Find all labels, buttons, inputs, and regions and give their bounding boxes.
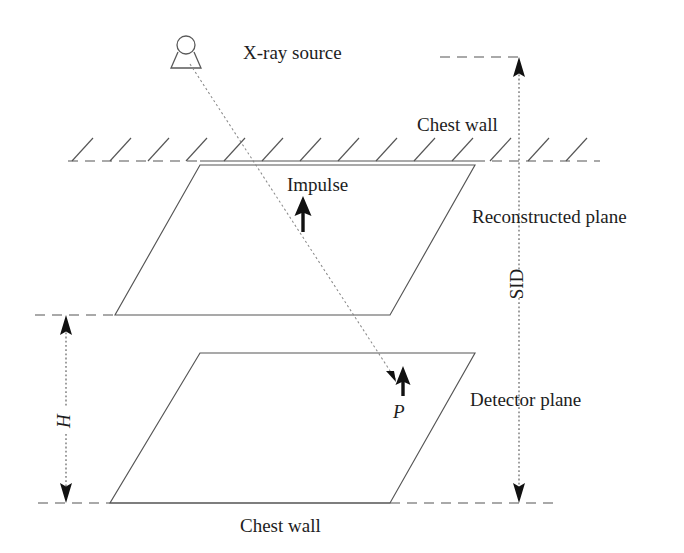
sid-arrow-up-icon [513,57,525,77]
xray-source-icon [171,36,201,68]
xray-source-label: X-ray source [243,42,342,63]
xray-ray-line [190,64,396,380]
height-label: H [53,413,74,429]
reconstructed-plane-label: Reconstructed plane [472,206,627,227]
height-dimension-group [60,315,72,503]
chest-wall-top-hatching [72,138,587,161]
point-p-arrow-icon [396,366,411,396]
chest-wall-top-group [68,138,600,161]
detector-plane-label: Detector plane [470,389,581,410]
point-p-label: P [392,401,405,422]
height-arrow-up-icon [60,315,72,335]
impulse-arrow-icon [295,196,312,232]
xray-source-circle [177,36,195,54]
xray-geometry-diagram: X-ray source Chest wall Impulse Reconstr… [0,0,684,553]
chest-wall-top-label: Chest wall [417,114,498,135]
diagram-canvas: X-ray source Chest wall Impulse Reconstr… [0,0,684,553]
xray-beam-ray [190,64,396,382]
ray-terminus-arrowhead [386,371,396,382]
impulse-label: Impulse [287,174,348,195]
chest-wall-bottom-label: Chest wall [240,515,321,536]
sid-arrow-down-icon [513,483,525,503]
sid-label: SID [506,269,527,300]
detector-plane-shape [110,353,475,503]
